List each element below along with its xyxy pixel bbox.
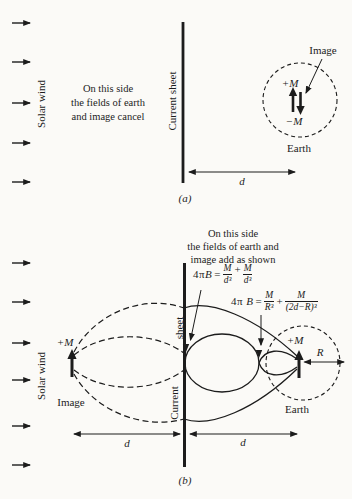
figure-page: Solar wind On this side the fields of ea…	[0, 0, 352, 499]
eq1-lhs: 4πB	[193, 268, 212, 280]
current-sheet-label-a: Current sheet	[166, 72, 178, 131]
earth-dipole-up-arrow-a	[289, 87, 297, 112]
earth-moment-label-b: +M	[287, 334, 304, 346]
note-line: the fields of earth and	[187, 240, 279, 253]
eq1-fraction-1: M d³	[223, 263, 233, 285]
solar-wind-label-b: Solar wind	[35, 352, 47, 400]
earth-label-b: Earth	[285, 403, 309, 415]
image-dipole-down-arrow-a	[296, 92, 304, 115]
note-text-a: On this side the fields of earth and ima…	[71, 82, 145, 124]
distance-label-left-b: d	[124, 437, 130, 449]
earth-field-lines-solid	[184, 306, 297, 422]
image-label-a: Image	[309, 44, 336, 56]
eq1-equals: =	[214, 268, 220, 280]
distance-label-a: d	[239, 175, 245, 187]
distance-label-right-b: d	[240, 436, 246, 448]
eq2-plus: +	[276, 295, 282, 307]
current-sheet-word-sheet-b: sheet	[173, 317, 185, 340]
note-line: On this side	[71, 82, 145, 96]
equation1-leader-arrow	[191, 290, 202, 340]
image-dipole-up-arrow-b	[67, 349, 76, 377]
current-sheet-word-current-b: Current	[168, 386, 180, 420]
note-line: On this side	[187, 227, 279, 240]
radius-label-b: R	[317, 346, 324, 358]
earth-moment-label-a: +M	[282, 77, 299, 89]
eq2-equals: =	[256, 295, 262, 307]
eq1-plus: +	[234, 263, 240, 275]
note-text-b: On this side the fields of earth and ima…	[187, 227, 279, 266]
field-line-solid-small-loop	[259, 351, 297, 375]
field-line-solid-outer-bottom	[184, 369, 297, 421]
current-sheet-line-a	[182, 22, 185, 183]
eq2-lhs: 4π B	[231, 295, 254, 307]
field-line-dashed-inner-top	[74, 337, 184, 355]
solar-wind-label-a: Solar wind	[35, 80, 47, 128]
image-moment-label-a: −M	[286, 115, 303, 127]
earth-label-a: Earth	[287, 142, 311, 154]
image-moment-label-b: +M	[57, 336, 74, 348]
note-line: the fields of earth	[71, 96, 145, 110]
field-line-solid-large-loop	[185, 334, 259, 392]
eq1-fraction-2: M d³	[243, 263, 253, 285]
solar-wind-arrows-a	[12, 23, 30, 182]
image-label-b: Image	[57, 396, 84, 408]
solar-wind-arrows-b	[12, 263, 30, 465]
field-line-solid-outer-top	[184, 306, 297, 356]
equation-1: 4πB = M d³ + M d³	[193, 263, 253, 285]
caption-b: (b)	[179, 474, 192, 486]
caption-a: (a)	[179, 192, 192, 204]
field-line-dashed-inner-bottom	[74, 370, 184, 387]
equation-2: 4π B = M R³ + M (2d−R)³	[231, 290, 318, 312]
note-line: and image cancel	[71, 110, 145, 124]
eq2-fraction-1: M R³	[264, 290, 275, 312]
eq2-fraction-2: M (2d−R)³	[285, 290, 318, 312]
